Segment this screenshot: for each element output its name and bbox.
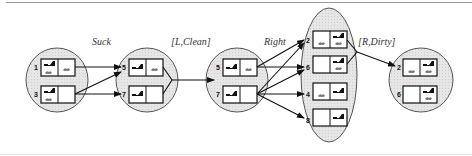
state-box-7b: [223, 86, 257, 103]
state-box-2b: [403, 59, 437, 76]
action-label-suck: Suck: [92, 36, 111, 47]
action-label-r-dirty: [R,Dirty]: [358, 36, 396, 47]
state-box-3: [41, 86, 75, 103]
state-number: 6: [306, 64, 310, 71]
action-label-right: Right: [263, 36, 286, 47]
state-number: 6: [397, 91, 401, 98]
arrow: [357, 52, 395, 66]
state-number: 2: [397, 64, 401, 71]
state-number: 5: [122, 64, 126, 71]
state-box-1: [41, 59, 75, 76]
state-box-6: [313, 56, 347, 73]
state-number: 7: [122, 91, 126, 98]
state-number: 8: [306, 117, 310, 124]
state-box-6b: [403, 86, 437, 103]
state-number: 2: [306, 37, 310, 44]
state-box-5: [129, 59, 163, 76]
state-box-4: [313, 83, 347, 100]
action-label-l-clean: [L,Clean]: [171, 36, 211, 47]
state-box-7: [129, 86, 163, 103]
belief-state-diagram: 1 3 5 7 5 7 2 6 4 8 2 6 Suck [L,Clean] R…: [0, 0, 472, 156]
bottom-rule: [0, 154, 472, 155]
state-box-8: [313, 109, 347, 126]
state-number: 5: [216, 64, 220, 71]
state-number: 1: [34, 64, 38, 71]
state-box-2: [313, 31, 347, 48]
state-number: 4: [306, 91, 310, 98]
state-number: 3: [34, 91, 38, 98]
arrow: [257, 94, 304, 118]
state-number: 7: [216, 91, 220, 98]
state-box-5b: [223, 59, 257, 76]
